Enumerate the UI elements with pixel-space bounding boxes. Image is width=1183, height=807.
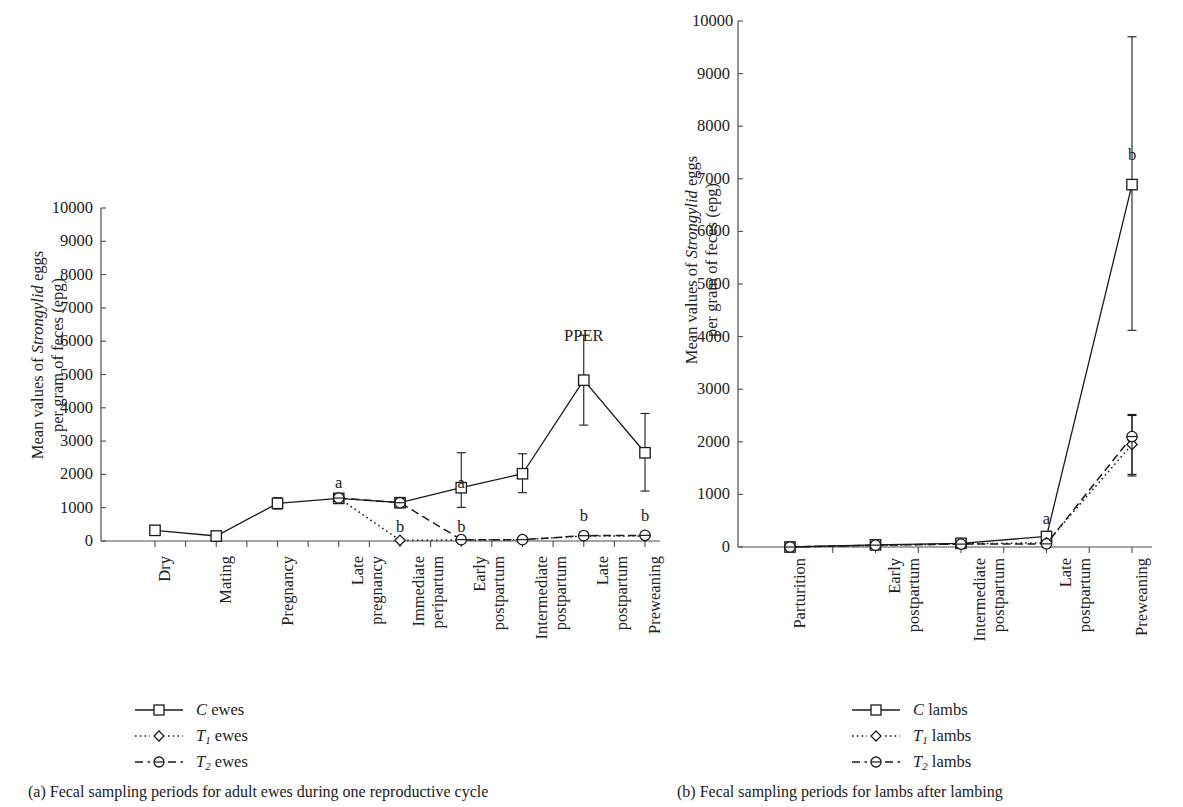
series-line	[790, 185, 1132, 547]
legend-lambs: C lambsT1 lambsT2 lambs	[849, 697, 971, 775]
y-axis-tick-label: 0	[692, 537, 730, 557]
x-axis-tick-label: Preweaning	[645, 556, 664, 706]
panel-caption-a: (a) Fecal sampling periods for adult ewe…	[28, 783, 488, 801]
series-line	[790, 437, 1132, 547]
y-axis-tick-label: 2000	[692, 432, 730, 452]
x-axis-tick-label: Preweaning	[1132, 558, 1151, 708]
x-axis-tick-label-line: postpartum	[1075, 558, 1094, 708]
x-axis-tick-label-line: Intermediate	[970, 558, 989, 708]
legend-item-label: T2 ewes	[186, 752, 248, 772]
legend-key-glyph	[132, 700, 186, 720]
y-axis-tick-label: 2000	[20, 464, 93, 484]
x-axis-tick-label-line: Pregnancy	[278, 556, 297, 706]
x-axis-tick-label-line: Mating	[216, 556, 235, 706]
y-axis-tick-label: 8000	[692, 116, 730, 136]
x-axis-tick-label-line: Parturition	[790, 558, 809, 708]
significance-letter: b	[580, 506, 588, 526]
marker-square	[272, 498, 282, 508]
x-axis-tick-label: Mating	[216, 556, 235, 706]
marker-square	[211, 531, 221, 541]
y-axis-tick-label: 1000	[20, 498, 93, 518]
significance-letter: a	[458, 473, 465, 493]
x-axis-tick-label-line: Late	[348, 556, 367, 706]
y-axis-tick-label: 5000	[692, 274, 730, 294]
series-line	[339, 498, 645, 540]
legend-item[interactable]: C ewes	[132, 697, 248, 723]
legend-item[interactable]: C lambs	[849, 697, 971, 723]
y-axis-tick-label: 7000	[20, 298, 93, 318]
legend-key-glyph	[849, 752, 903, 772]
legend-ewes: C ewesT1 ewesT2 ewes	[132, 697, 248, 775]
x-axis-tick-label: Latepregnancy	[348, 556, 386, 706]
y-axis-tick-label: 6000	[20, 331, 93, 351]
x-axis-tick-label-line: postpartum	[489, 556, 508, 706]
x-axis-tick-label: Immediateperipartum	[409, 556, 447, 706]
y-axis-tick-label: 3000	[20, 431, 93, 451]
x-axis-tick-label: Latepostpartum	[1056, 558, 1094, 708]
dotted-diamond-key	[849, 726, 903, 746]
y-axis-tick-label: 5000	[20, 365, 93, 385]
data-series	[785, 416, 1137, 553]
y-axis-tick-label: 8000	[20, 265, 93, 285]
chart-panel-lambs: Mean values of Strongylid eggsper gram o…	[672, 0, 1183, 807]
y-axis-tick-label: 9000	[692, 64, 730, 84]
x-axis-tick-label: Earlypostpartum	[885, 558, 923, 708]
chart-panel-ewes: Mean values of Strongylid eggsper gram o…	[0, 0, 672, 807]
y-axis-tick-label: 4000	[20, 398, 93, 418]
significance-letter: b	[396, 517, 404, 537]
x-axis-tick-label: Pregnancy	[278, 556, 297, 706]
legend-item[interactable]: T2 ewes	[132, 749, 248, 775]
figure-root: Mean values of Strongylid eggsper gram o…	[0, 0, 1183, 807]
data-series	[334, 493, 651, 545]
y-axis-tick-label: 6000	[692, 221, 730, 241]
x-axis-tick-label-line: Immediate	[409, 556, 428, 706]
x-axis-tick-label-line: postpartum	[989, 558, 1008, 708]
y-axis-tick-label: 7000	[692, 169, 730, 189]
marker-square	[517, 469, 527, 479]
data-series	[785, 37, 1137, 552]
dashed-circle-key	[132, 752, 186, 772]
y-axis-tick-label: 1000	[692, 484, 730, 504]
solid-square-key	[849, 700, 903, 720]
marker-square	[1127, 179, 1137, 189]
x-axis-tick-label-line: pregnancy	[367, 556, 386, 706]
y-axis-tick-label: 4000	[692, 327, 730, 347]
y-axis-tick-label: 0	[20, 531, 93, 551]
legend-item[interactable]: T1 ewes	[132, 723, 248, 749]
y-axis-tick-label: 3000	[692, 379, 730, 399]
x-axis-tick-label-line: Early	[470, 556, 489, 706]
x-axis-tick-label: Dry	[155, 556, 174, 706]
x-axis-tick-label-line: peripartum	[428, 556, 447, 706]
plot-area-ewes	[0, 0, 672, 700]
x-axis-tick-label-line: Preweaning	[1132, 558, 1151, 708]
legend-item[interactable]: T2 lambs	[849, 749, 971, 775]
x-axis-tick-label-line: Late	[593, 556, 612, 706]
legend-key-glyph	[849, 726, 903, 746]
series-line	[339, 498, 645, 540]
axes	[101, 208, 660, 547]
marker-square	[640, 448, 650, 458]
significance-letter: b	[1128, 145, 1136, 165]
marker-square	[154, 705, 164, 715]
x-axis-tick-label-line: Early	[885, 558, 904, 708]
significance-letter: a	[1043, 509, 1050, 529]
legend-key-glyph	[849, 700, 903, 720]
data-series	[150, 335, 650, 541]
dotted-diamond-key	[132, 726, 186, 746]
legend-item-label: T2 lambs	[903, 752, 971, 772]
marker-square	[579, 375, 589, 385]
marker-square	[150, 525, 160, 535]
x-axis-tick-label: Parturition	[790, 558, 809, 708]
legend-key-glyph	[132, 726, 186, 746]
y-axis-tick-label: 10000	[692, 11, 730, 31]
legend-item-label: C ewes	[186, 700, 244, 720]
legend-item[interactable]: T1 lambs	[849, 723, 971, 749]
legend-item-label: T1 ewes	[186, 726, 248, 746]
x-axis-tick-label: Intermediatepostpartum	[532, 556, 570, 706]
x-axis-tick-label: Intermediatepostpartum	[970, 558, 1008, 708]
legend-item-label: C lambs	[903, 700, 968, 720]
x-axis-tick-label-line: postpartum	[612, 556, 631, 706]
x-axis-tick-label-line: Late	[1056, 558, 1075, 708]
pper-annotation: PPER	[564, 326, 603, 346]
series-line	[155, 380, 645, 536]
